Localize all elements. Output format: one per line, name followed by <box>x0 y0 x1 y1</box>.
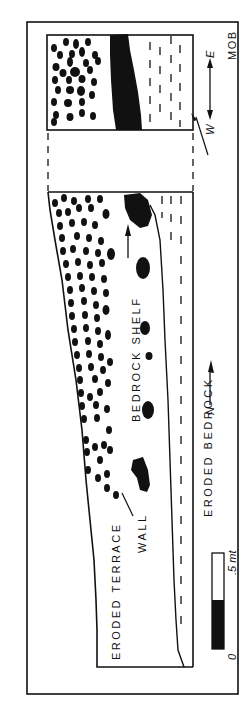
bedrock-shelf-label: BEDROCK SHELF <box>130 297 142 422</box>
east-label: E <box>204 50 216 58</box>
eroded-terrace-label: ERODED TERRACE <box>110 523 122 660</box>
eroded-bedrock-pointer-line <box>196 117 208 155</box>
scale-end-label: .5 mt <box>226 550 238 575</box>
west-label: W <box>204 123 216 135</box>
north-label: N <box>204 407 216 415</box>
eroded-bedrock-label: ERODED BEDROCK <box>202 377 214 517</box>
scale-bar <box>212 553 224 649</box>
diagram-canvas: ERODED TERRACE WALL BEDROCK SHELF ERODED… <box>0 0 250 709</box>
wall-pointer-line <box>122 493 133 516</box>
gap-dashed-lines <box>48 133 193 191</box>
upper-panel <box>47 34 193 130</box>
bedrock-shelf-arrow <box>125 224 131 258</box>
author-mark: MOB <box>226 30 238 60</box>
west-east-arrow <box>207 58 213 120</box>
wall-label: WALL <box>136 513 148 553</box>
scale-zero-label: 0 <box>226 653 238 660</box>
